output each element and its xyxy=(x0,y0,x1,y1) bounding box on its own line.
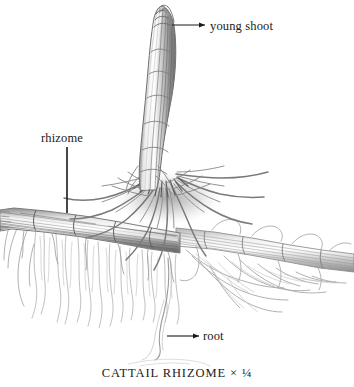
label-young-shoot: young shoot xyxy=(210,19,273,34)
figure-caption: CATTAIL RHIZOME × ¼ xyxy=(0,366,354,381)
cattail-rhizome-drawing xyxy=(0,0,354,387)
illustration-plate: young shoot rhizome root CATTAIL RHIZOME… xyxy=(0,0,354,387)
label-rhizome: rhizome xyxy=(41,131,83,146)
label-root: root xyxy=(203,329,224,344)
